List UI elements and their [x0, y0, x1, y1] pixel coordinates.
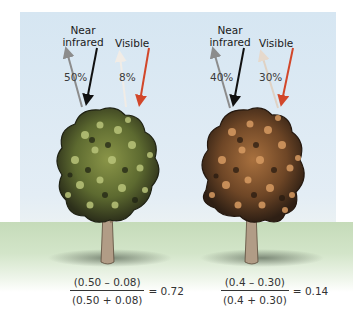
near-infrared-label-line1: Near: [209, 24, 251, 36]
near-infrared-incoming-arrow-left: [87, 48, 97, 100]
near-infrared-incoming-arrow-right: [234, 48, 244, 101]
near-infrared-reflectance-left: 50%: [64, 71, 87, 83]
near-infrared-label-right: Near infrared: [209, 24, 251, 48]
near-infrared-reflectance-right: 40%: [210, 71, 233, 83]
fraction: (0.4 – 0.30) (0.4 + 0.30): [221, 276, 289, 306]
numerator: (0.50 – 0.08): [72, 276, 143, 290]
ndvi-formula-left: (0.50 – 0.08) (0.50 + 0.08) = 0.72: [70, 276, 184, 306]
visible-label-left: Visible: [115, 37, 149, 49]
tree-shadow-right: [200, 249, 324, 267]
ndvi-formula-right: (0.4 – 0.30) (0.4 + 0.30) = 0.14: [221, 276, 328, 306]
tree-illustration: [0, 0, 353, 321]
visible-incoming-arrow-left: [140, 48, 149, 101]
near-infrared-label-line1: Near: [62, 24, 104, 36]
visible-incoming-arrow-right: [282, 48, 293, 101]
healthy-tree: [57, 108, 159, 264]
near-infrared-label-line2: infrared: [209, 36, 251, 48]
ndvi-result: = 0.72: [148, 285, 184, 297]
stressed-tree: [202, 108, 304, 264]
ndvi-result: = 0.14: [293, 285, 329, 297]
visible-reflectance-right: 30%: [259, 71, 282, 83]
near-infrared-label-line2: infrared: [62, 36, 104, 48]
visible-label-right: Visible: [259, 37, 293, 49]
visible-reflectance-left: 8%: [119, 71, 136, 83]
denominator: (0.4 + 0.30): [221, 291, 289, 306]
near-infrared-label-left: Near infrared: [62, 24, 104, 48]
denominator: (0.50 + 0.08): [70, 291, 144, 306]
numerator: (0.4 – 0.30): [223, 276, 287, 290]
fraction: (0.50 – 0.08) (0.50 + 0.08): [70, 276, 144, 306]
